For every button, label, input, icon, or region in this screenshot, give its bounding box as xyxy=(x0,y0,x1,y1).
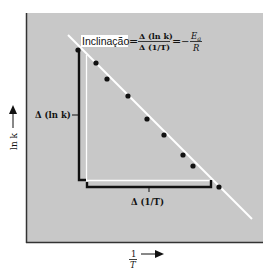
data-point xyxy=(125,93,130,98)
delta-lnk-label: Δ (ln k) xyxy=(35,110,71,120)
data-point xyxy=(93,60,98,65)
delta-invT-label: Δ (1/T) xyxy=(131,197,164,207)
equals-sign-2: = xyxy=(172,35,181,48)
data-point xyxy=(75,47,80,52)
data-point xyxy=(216,184,221,189)
y-axis-arrow-icon xyxy=(9,105,17,114)
data-point xyxy=(161,132,166,137)
x-axis-label-group: 1 T xyxy=(129,249,164,270)
fraction2-denominator: R xyxy=(192,43,200,53)
fraction1-numerator: Δ (ln k) xyxy=(139,31,173,41)
y-axis-label: ln k xyxy=(9,132,19,150)
slope-word: Inclinação xyxy=(82,35,129,47)
data-point xyxy=(190,163,195,168)
x-axis-label-denominator: T xyxy=(130,260,137,270)
equals-sign-1: = xyxy=(129,35,138,48)
data-point xyxy=(180,152,185,157)
x-axis-label-numerator: 1 xyxy=(131,249,136,259)
fraction1-denominator: Δ (1/T) xyxy=(139,42,170,52)
minus-sign: − xyxy=(181,36,189,47)
arrhenius-plot: Inclinação = Δ (ln k) Δ (1/T) = − Ea R Δ… xyxy=(0,0,275,274)
x-axis-arrow-icon xyxy=(155,250,164,258)
data-point xyxy=(144,116,149,121)
data-point xyxy=(104,76,109,81)
y-axis-label-group: ln k xyxy=(9,105,19,150)
